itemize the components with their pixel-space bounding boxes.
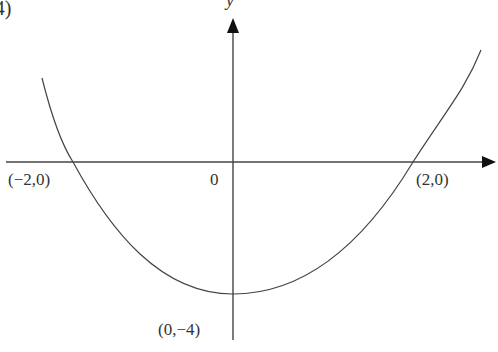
x-axis-arrow-icon	[482, 156, 496, 168]
y-axis-arrow-icon	[227, 18, 239, 33]
point-label-0-neg4: (0,−4)	[158, 321, 200, 338]
part-label: (4)	[0, 0, 11, 18]
point-label-2-0: (2,0)	[416, 171, 449, 188]
origin-label: 0	[210, 171, 219, 188]
y-axis-label: y	[226, 0, 234, 9]
point-label-neg2-0: (−2,0)	[8, 171, 50, 188]
